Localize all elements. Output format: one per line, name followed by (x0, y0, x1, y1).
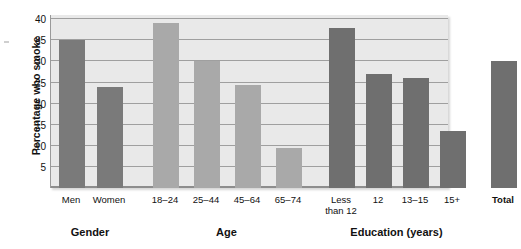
y-tick-label: 20 (4, 98, 50, 109)
bar-category-label: 65–74 (262, 194, 314, 205)
gridline (51, 18, 448, 19)
y-axis-ticks: 510152025303540 (0, 15, 50, 188)
y-tick-label: 35 (4, 35, 50, 46)
bar-category-label: 15+ (426, 194, 478, 205)
gridline (51, 60, 448, 61)
bar (491, 61, 517, 188)
bar (276, 148, 302, 188)
plot-area (50, 15, 448, 188)
y-tick-label: 40 (4, 14, 50, 25)
group-label: Age (157, 226, 297, 238)
bar (440, 131, 466, 188)
bar (403, 78, 429, 188)
bar (235, 85, 261, 188)
bar (194, 61, 220, 188)
y-tick-label: 30 (4, 56, 50, 67)
bar (366, 74, 392, 188)
bar (329, 28, 355, 188)
y-tick-label: 5 (4, 161, 50, 172)
y-tick-label: 25 (4, 77, 50, 88)
gridline (51, 39, 448, 40)
group-label: Gender (20, 226, 160, 238)
y-tick-label: 15 (4, 119, 50, 130)
bar (153, 23, 179, 188)
bar-category-label: Total (477, 194, 521, 205)
bar (59, 40, 85, 188)
y-tick-label: 10 (4, 140, 50, 151)
bar-category-label: Women (83, 194, 135, 205)
group-label: Education (years) (327, 226, 467, 238)
bar (97, 87, 123, 188)
